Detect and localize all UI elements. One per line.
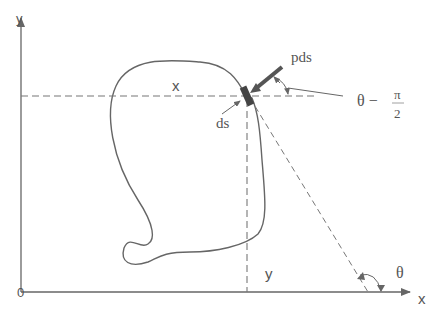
- pi-denominator: 2: [394, 106, 401, 121]
- y-axis-label: y: [16, 11, 23, 26]
- y-distance-label: y: [265, 265, 273, 282]
- ds-label: ds: [216, 115, 230, 131]
- origin-label: 0: [17, 285, 24, 300]
- ds-pointer: [222, 101, 240, 114]
- theta-arc-arrow-2: [377, 285, 385, 292]
- ds-element: [243, 87, 251, 105]
- normal-dashed-line: [250, 98, 368, 292]
- pressure-diagram: y x 0 x y ds pds θ − π 2 θ: [0, 0, 434, 322]
- pi-numerator: π: [394, 87, 401, 102]
- angle-offset-label: θ −: [357, 92, 378, 109]
- x-axis-label: x: [418, 290, 426, 307]
- pds-label: pds: [291, 49, 312, 65]
- theta-label: θ: [396, 264, 404, 281]
- theta-arc-arrow-1: [357, 272, 365, 280]
- x-distance-label: x: [172, 77, 180, 94]
- angle-label-pointer: [288, 88, 343, 96]
